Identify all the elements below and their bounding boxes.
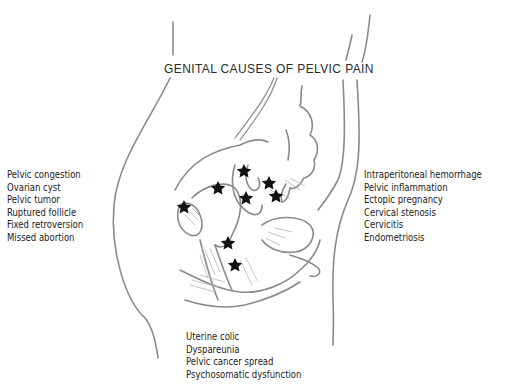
bottom-causes-list: Uterine colic Dyspareunia Pelvic cancer … <box>186 330 314 380</box>
list-item: Intraperitoneal hemorrhage <box>364 168 482 181</box>
body-outline-front <box>362 15 370 62</box>
pelvic-pain-diagram: GENITAL CAUSES OF PELVIC PAIN Pelvic con… <box>0 0 507 389</box>
pain-site-markers <box>177 164 283 272</box>
left-causes-list: Pelvic congestion Ovarian cyst Pelvic tu… <box>7 168 92 244</box>
list-item: Pelvic cancer spread <box>186 355 301 368</box>
vaginal-canal <box>215 245 232 290</box>
figure-title: GENITAL CAUSES OF PELVIC PAIN <box>164 62 374 76</box>
bladder <box>262 218 313 253</box>
rectum <box>200 240 218 300</box>
star-icon <box>211 181 225 195</box>
right-causes-list: Intraperitoneal hemorrhage Pelvic inflam… <box>364 168 495 244</box>
list-item: Pelvic inflammation <box>364 181 482 194</box>
list-item: Ectopic pregnancy <box>364 193 482 206</box>
body-outline-front-2 <box>346 35 352 60</box>
star-icon <box>237 164 251 178</box>
list-item: Cervicitis <box>364 218 482 231</box>
spine-line <box>240 78 277 140</box>
abdomen-wall-outer <box>333 80 359 345</box>
star-icon <box>221 236 235 250</box>
tube-right <box>246 165 260 190</box>
list-item: Uterine colic <box>186 330 301 343</box>
abdomen-wall-inner <box>318 80 344 210</box>
intestine-inner <box>286 130 289 160</box>
list-item: Cervical stenosis <box>364 206 482 219</box>
perineum <box>185 282 300 307</box>
star-icon <box>262 176 276 190</box>
pelvic-cavity <box>175 140 268 190</box>
intestine-loops <box>281 86 317 202</box>
list-item: Endometriosis <box>364 231 482 244</box>
list-item: Psychosomatic dysfunction <box>186 368 301 381</box>
list-item: Pelvic congestion <box>7 168 83 181</box>
list-item: Pelvic tumor <box>7 193 83 206</box>
body-outline-back-lower <box>113 78 170 358</box>
list-item: Fixed retroversion <box>7 218 83 231</box>
list-item: Ruptured follicle <box>7 206 83 219</box>
list-item: Dyspareunia <box>186 343 301 356</box>
list-item: Missed abortion <box>7 231 83 244</box>
spine-line-2 <box>235 78 274 138</box>
list-item: Ovarian cyst <box>7 181 83 194</box>
